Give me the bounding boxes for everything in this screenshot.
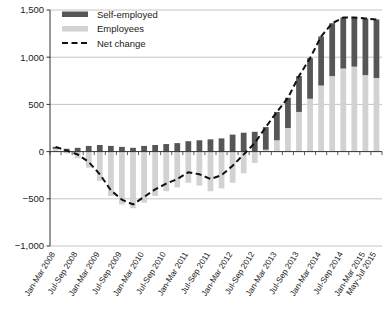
bar-self-employed	[197, 140, 203, 151]
bar-employees	[130, 152, 136, 209]
bar-self-employed	[285, 98, 291, 128]
y-axis-tick-label: −500	[23, 193, 44, 204]
bar-self-employed	[296, 76, 302, 112]
bar-employees	[219, 152, 225, 189]
bar-self-employed	[230, 135, 236, 152]
bar-self-employed	[108, 146, 114, 152]
bar-self-employed	[351, 18, 357, 67]
bar-employees	[296, 112, 302, 152]
bar-self-employed	[208, 139, 214, 151]
legend-label-net-change: Net change	[97, 38, 146, 49]
bar-employees	[185, 152, 191, 183]
legend-label-self-employed: Self-employed	[97, 9, 158, 20]
bar-employees	[208, 152, 214, 192]
bar-employees	[329, 76, 335, 152]
bar-self-employed	[340, 18, 346, 69]
bar-employees	[97, 152, 103, 181]
y-axis-tick-label: 500	[28, 99, 44, 110]
bar-self-employed	[241, 133, 247, 152]
legend: Self-employedEmployeesNet change	[62, 9, 158, 49]
bar-self-employed	[174, 143, 180, 151]
y-axis-tick-label: 1,000	[20, 52, 44, 63]
employment-change-chart: −1,000−50005001,0001,500Jan-Mar 2008Jul-…	[0, 0, 386, 316]
bar-employees	[340, 69, 346, 152]
bar-self-employed	[363, 18, 369, 75]
y-axis-tick-label: 0	[39, 146, 44, 157]
y-axis-tick-label: −1,000	[15, 240, 44, 251]
bar-employees	[285, 128, 291, 152]
bar-self-employed	[97, 145, 103, 152]
bar-self-employed	[163, 144, 169, 152]
bar-self-employed	[86, 146, 92, 152]
bar-employees	[174, 152, 180, 188]
bar-employees	[351, 67, 357, 152]
legend-swatch-employees	[62, 26, 88, 32]
legend-label-employees: Employees	[97, 23, 144, 34]
bar-self-employed	[374, 19, 380, 78]
bar-employees	[363, 75, 369, 151]
bar-employees	[274, 140, 280, 151]
legend-swatch-self-employed	[62, 12, 88, 18]
chart-canvas: −1,000−50005001,0001,500Jan-Mar 2008Jul-…	[0, 0, 386, 316]
bar-employees	[318, 86, 324, 152]
y-axis: −1,000−50005001,0001,500	[15, 4, 50, 251]
bar-self-employed	[307, 58, 313, 99]
bar-employees	[119, 152, 125, 205]
bar-self-employed	[329, 23, 335, 76]
bar-employees	[197, 152, 203, 186]
bar-employees	[374, 78, 380, 152]
bar-employees	[252, 152, 258, 163]
bar-self-employed	[185, 141, 191, 151]
bar-self-employed	[141, 146, 147, 152]
bar-self-employed	[130, 148, 136, 152]
x-axis-labels: Jan-Mar 2008Jul-Sep 2008Jan-Mar 2009Jul-…	[23, 250, 379, 298]
bar-self-employed	[219, 138, 225, 151]
y-axis-tick-label: 1,500	[20, 4, 44, 15]
bar-self-employed	[75, 148, 81, 152]
bar-self-employed	[119, 147, 125, 152]
bar-self-employed	[318, 36, 324, 85]
bar-employees	[307, 99, 313, 152]
bar-self-employed	[152, 145, 158, 152]
